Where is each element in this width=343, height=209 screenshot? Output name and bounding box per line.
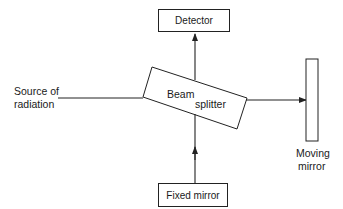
fixed-mirror-label: Fixed mirror [166,190,219,201]
detector-box: Detector [158,9,230,32]
moving-mirror-label-line1: Moving [296,147,330,159]
source-label-line2: radiation [14,98,54,110]
beam-splitter-label-line1: Beam [167,88,194,100]
moving-mirror-label-line2: mirror [298,160,325,172]
source-label-line1: Source of [14,85,59,97]
beam-splitter-label-line2: splitter [195,98,226,110]
moving-mirror-shape [306,59,318,141]
detector-label: Detector [175,15,213,26]
fixed-mirror-box: Fixed mirror [158,183,228,207]
